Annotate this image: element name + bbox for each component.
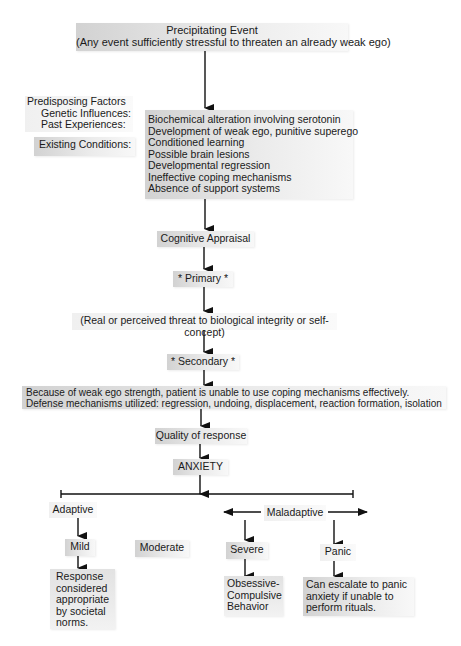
existing-conditions-box: Existing Conditions: bbox=[34, 137, 135, 156]
primary-label: * Primary * bbox=[178, 272, 228, 284]
precipitating-event-subtitle: (Any event sufficiently stressful to thr… bbox=[76, 37, 348, 49]
maladaptive-box: Maladaptive bbox=[264, 505, 326, 521]
predisposing-factors-box: Predisposing Factors Genetic Influences:… bbox=[25, 96, 133, 132]
precipitating-event-title: Precipitating Event bbox=[76, 25, 348, 37]
mild-outcome-line: norms. bbox=[56, 617, 115, 629]
level-panic-label: Panic bbox=[325, 545, 351, 557]
cognitive-appraisal-label: Cognitive Appraisal bbox=[161, 232, 251, 244]
cognitive-appraisal-box: Cognitive Appraisal bbox=[157, 231, 254, 247]
existing-conditions-label: Existing Conditions: bbox=[39, 138, 131, 150]
factor-item: Biochemical alteration involving seroton… bbox=[148, 114, 353, 126]
adaptive-label: Adaptive bbox=[53, 503, 94, 515]
precipitating-event-box: Precipitating Event (Any event sufficien… bbox=[76, 23, 348, 51]
level-panic-box: Panic bbox=[320, 544, 356, 561]
anxiety-box: ANXIETY bbox=[173, 459, 228, 475]
level-mild-box: Mild bbox=[65, 539, 95, 556]
factor-item: Conditioned learning bbox=[148, 137, 353, 149]
secondary-detail-box: Because of weak ego strength, patient is… bbox=[22, 386, 446, 409]
mild-outcome-line: appropriate bbox=[56, 594, 115, 606]
severe-outcome-box: Obsessive- Compulsive Behavior bbox=[224, 576, 283, 616]
mild-outcome-box: Response considered appropriate by socie… bbox=[50, 569, 115, 629]
secondary-box: * Secondary * bbox=[167, 354, 239, 370]
secondary-detail-line1: Because of weak ego strength, patient is… bbox=[26, 387, 446, 398]
past-experiences-label: Past Experiences: bbox=[27, 119, 131, 131]
level-severe-label: Severe bbox=[230, 543, 263, 555]
predisposing-factors-title: Predisposing Factors bbox=[27, 96, 131, 108]
factor-item: Developmental regression bbox=[148, 160, 353, 172]
level-moderate-box: Moderate bbox=[135, 540, 189, 557]
panic-outcome-line: perform rituals. bbox=[306, 602, 414, 614]
contributing-factors-box: Biochemical alteration involving seroton… bbox=[145, 110, 353, 199]
secondary-detail-line2: Defense mechanisms utilized: regression,… bbox=[26, 398, 446, 409]
severe-outcome-line: Behavior bbox=[227, 601, 283, 613]
severe-outcome-line: Obsessive- bbox=[227, 578, 283, 590]
quality-of-response-box: Quality of response bbox=[155, 428, 247, 444]
primary-detail-box: (Real or perceived threat to biological … bbox=[72, 313, 337, 330]
level-mild-label: Mild bbox=[70, 540, 89, 552]
panic-outcome-line: Can escalate to panic bbox=[306, 579, 414, 591]
level-severe-box: Severe bbox=[226, 542, 268, 559]
anxiety-label: ANXIETY bbox=[178, 460, 223, 472]
primary-box: * Primary * bbox=[173, 271, 233, 287]
panic-outcome-box: Can escalate to panic anxiety if unable … bbox=[303, 577, 414, 616]
factor-item: Absence of support systems bbox=[148, 183, 353, 195]
maladaptive-label: Maladaptive bbox=[267, 506, 324, 518]
adaptive-box: Adaptive bbox=[49, 502, 97, 518]
secondary-label: * Secondary * bbox=[171, 355, 235, 367]
quality-of-response-label: Quality of response bbox=[156, 429, 246, 441]
mild-outcome-line: Response bbox=[56, 571, 115, 583]
level-moderate-label: Moderate bbox=[140, 541, 184, 553]
